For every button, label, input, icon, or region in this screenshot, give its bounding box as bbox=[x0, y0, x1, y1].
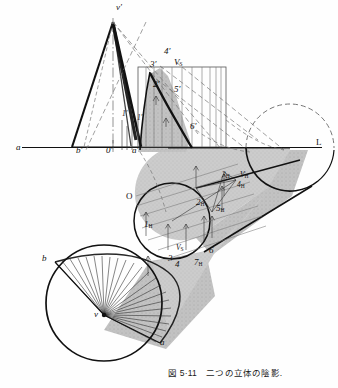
label-vs-plan: VS bbox=[176, 244, 184, 253]
label-v-plan: v bbox=[94, 310, 98, 319]
label-vs-front: VS bbox=[174, 58, 183, 68]
label-a-left: a bbox=[16, 143, 21, 152]
label-a-plan: a bbox=[160, 338, 165, 347]
label-o-prime: 0′ bbox=[106, 146, 112, 155]
label-four-H: 4H bbox=[237, 181, 245, 190]
label-four-plan: 4 bbox=[175, 260, 180, 269]
label-five-H: 5H bbox=[216, 204, 224, 214]
label-two-H: 2H bbox=[196, 198, 204, 208]
figure-caption: 図 5·11 二つの立体の陰影. bbox=[168, 366, 338, 378]
label-one-prime: 1′ bbox=[122, 110, 127, 118]
label-six-plan: 6 bbox=[209, 246, 214, 255]
cone-ray-dashed bbox=[84, 22, 113, 147]
label-one-H: 1H bbox=[144, 220, 152, 230]
label-three-prime: 3′ bbox=[150, 60, 156, 69]
cylinder-shadow-plan bbox=[135, 147, 308, 255]
label-vh-plan: VH bbox=[240, 171, 249, 180]
figure-container: v′ a b′ 0′ 1′ a′ L 3′ 4′ VS 2′ 5′ 6′ 1′ … bbox=[0, 0, 338, 388]
label-seven-H: 7H bbox=[194, 258, 202, 268]
label-two-prime: 2′ bbox=[153, 80, 159, 89]
label-b-prime: b′ bbox=[76, 146, 82, 155]
label-three-plan: 3 bbox=[168, 254, 173, 263]
label-four-prime: 4′ bbox=[164, 47, 170, 56]
label-O-plan: O bbox=[126, 192, 133, 201]
label-five-prime: 5′ bbox=[174, 85, 180, 94]
label-a-prime: a′ bbox=[132, 146, 138, 155]
label-three-H: 3H bbox=[222, 171, 230, 180]
label-six-prime: 6′ bbox=[190, 122, 196, 131]
label-b-plan: b bbox=[42, 254, 47, 263]
label-one-prime-inner: 1′ bbox=[137, 114, 142, 122]
cone-front-view bbox=[72, 18, 141, 152]
technical-drawing bbox=[0, 0, 338, 388]
label-v-prime: v′ bbox=[116, 3, 122, 12]
label-L: L bbox=[316, 138, 322, 147]
